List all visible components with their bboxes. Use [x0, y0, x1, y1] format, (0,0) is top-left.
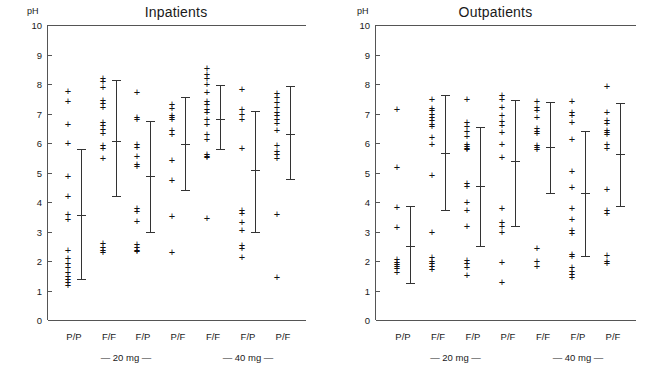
plus-marker	[568, 204, 577, 213]
error-bar-cap-upper	[406, 206, 415, 207]
y-tick-label-7: 7	[352, 108, 370, 119]
mean-marker	[581, 193, 590, 194]
figure-root: Inpatients pH 012345678910P/PF/FF/PP/FF/…	[0, 0, 647, 368]
plus-marker	[273, 210, 282, 219]
error-bar-line	[116, 80, 117, 196]
y-tick-6	[376, 143, 380, 144]
plus-marker	[393, 268, 402, 277]
mean-marker	[286, 134, 295, 135]
plus-marker	[99, 83, 108, 92]
x-tick-label-outpatients-3: P/F	[488, 331, 528, 342]
y-tick-label-8: 8	[24, 79, 42, 90]
plus-marker	[238, 144, 247, 153]
plot-area-inpatients	[47, 25, 305, 320]
plus-marker	[168, 176, 177, 185]
error-bar-line	[410, 206, 411, 284]
error-bar-cap-upper	[616, 103, 625, 104]
panel-title-inpatients: Inpatients	[0, 4, 324, 20]
x-tick-label-inpatients-5: F/P	[228, 331, 268, 342]
error-bar-cap-upper	[181, 97, 190, 98]
plus-marker	[273, 126, 282, 135]
dose-group-label-inpatients-1: — 40 mg —	[203, 352, 293, 363]
plus-marker	[64, 192, 73, 201]
y-tick-label-1: 1	[24, 285, 42, 296]
plus-marker	[133, 115, 142, 124]
mean-marker	[77, 215, 86, 216]
plus-marker	[498, 258, 507, 267]
axis-cap-top	[48, 25, 306, 26]
plus-marker	[133, 88, 142, 97]
y-tick-6	[48, 143, 52, 144]
plus-marker	[168, 130, 177, 139]
y-tick-2	[48, 261, 52, 262]
plus-marker	[99, 129, 108, 138]
y-tick-8	[48, 84, 52, 85]
plus-marker	[393, 163, 402, 172]
x-tick-label-inpatients-0: P/P	[54, 331, 94, 342]
plus-marker	[64, 172, 73, 181]
plus-marker	[99, 248, 108, 257]
error-bar-cap-lower	[616, 206, 625, 207]
plus-marker	[64, 139, 73, 148]
panel-title-outpatients: Outpatients	[324, 4, 647, 20]
plus-marker	[238, 253, 247, 262]
axis-cap-top	[376, 25, 636, 26]
error-bar-line	[515, 100, 516, 225]
x-tick-label-outpatients-1: F/F	[418, 331, 458, 342]
x-tick-label-outpatients-2: F/P	[453, 331, 493, 342]
x-tick-label-outpatients-4: F/F	[523, 331, 563, 342]
dose-group-label-outpatients-1: — 40 mg —	[533, 352, 623, 363]
plus-marker	[498, 228, 507, 237]
error-bar-cap-lower	[406, 283, 415, 284]
plus-marker	[99, 103, 108, 112]
y-tick-4	[48, 202, 52, 203]
y-tick-5	[376, 173, 380, 174]
plus-marker	[133, 162, 142, 171]
plus-marker	[568, 215, 577, 224]
y-tick-label-9: 9	[24, 49, 42, 60]
plus-marker	[568, 135, 577, 144]
error-bar-cap-lower	[441, 210, 450, 211]
mean-marker	[112, 141, 121, 142]
y-tick-label-4: 4	[24, 197, 42, 208]
plus-marker	[568, 252, 577, 261]
y-tick-label-2: 2	[24, 256, 42, 267]
plus-marker	[203, 135, 212, 144]
plus-marker	[463, 145, 472, 154]
plus-marker	[168, 212, 177, 221]
mean-marker	[616, 154, 625, 155]
x-tick-label-inpatients-6: P/F	[263, 331, 303, 342]
plus-marker	[428, 122, 437, 131]
y-tick-2	[376, 261, 380, 262]
plus-marker	[273, 273, 282, 282]
y-tick-label-6: 6	[24, 138, 42, 149]
error-bar-cap-upper	[286, 86, 295, 87]
x-tick-label-outpatients-5: F/P	[558, 331, 598, 342]
plus-marker	[168, 248, 177, 257]
plus-marker	[498, 128, 507, 137]
y-tick-label-5: 5	[352, 167, 370, 178]
y-tick-7	[48, 114, 52, 115]
plus-marker	[64, 281, 73, 290]
plus-marker	[203, 153, 212, 162]
plus-marker	[428, 228, 437, 237]
y-tick-3	[48, 232, 52, 233]
plus-marker	[568, 183, 577, 192]
plus-marker	[603, 185, 612, 194]
x-tick-label-outpatients-0: P/P	[383, 331, 423, 342]
plus-marker	[238, 226, 247, 235]
y-tick-label-0: 0	[352, 315, 370, 326]
plus-marker	[238, 115, 247, 124]
y-tick-9	[48, 55, 52, 56]
error-bar-cap-lower	[286, 179, 295, 180]
plus-marker	[168, 156, 177, 165]
error-bar-cap-upper	[77, 149, 86, 150]
plus-marker	[133, 217, 142, 226]
plot-area-outpatients	[375, 25, 635, 320]
error-bar-cap-lower	[181, 190, 190, 191]
plus-marker	[568, 273, 577, 282]
y-tick-label-6: 6	[352, 138, 370, 149]
mean-marker	[181, 144, 190, 145]
error-bar-cap-upper	[476, 127, 485, 128]
plus-marker	[568, 167, 577, 176]
